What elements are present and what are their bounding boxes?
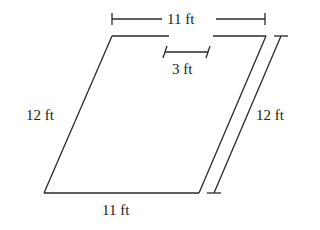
left-edge [44, 36, 112, 193]
bottom-width-label: 11 ft [102, 203, 129, 218]
left-side-label: 12 ft [26, 108, 54, 123]
top-width-label: 11 ft [167, 12, 194, 27]
gap-width-label: 3 ft [172, 62, 192, 77]
right-side-label: 12 ft [256, 108, 284, 123]
